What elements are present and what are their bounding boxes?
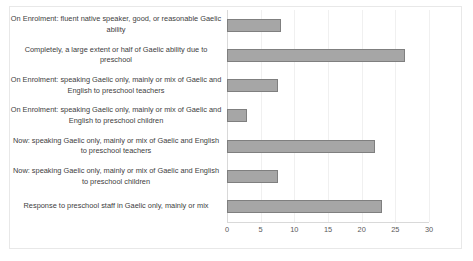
category-label: Response to preschool staff in Gaelic on…	[10, 192, 226, 222]
bar[interactable]	[227, 49, 405, 62]
bar-row	[227, 161, 429, 191]
category-label: On Enrolment: speaking Gaelic only, main…	[10, 101, 226, 131]
x-axis-tick-label: 10	[290, 225, 298, 234]
bar[interactable]	[227, 79, 278, 92]
chart-plot-container: On Enrolment: fluent native speaker, goo…	[10, 7, 461, 248]
category-label-text: Completely, a large extent or half of Ga…	[10, 45, 222, 66]
chart-frame: On Enrolment: fluent native speaker, goo…	[9, 6, 462, 249]
x-axis-tick-label: 5	[259, 225, 263, 234]
bar[interactable]	[227, 19, 281, 32]
gridline	[429, 10, 430, 222]
bar-row	[227, 10, 429, 40]
category-label: On Enrolment: speaking Gaelic only, main…	[10, 71, 226, 101]
x-axis-tick-label: 20	[358, 225, 366, 234]
category-label-text: Now: speaking Gaelic only, mainly or mix…	[10, 166, 222, 187]
category-label-text: On Enrolment: fluent native speaker, goo…	[10, 14, 222, 35]
category-label: Now: speaking Gaelic only, mainly or mix…	[10, 131, 226, 161]
bar-row	[227, 192, 429, 222]
category-label: On Enrolment: fluent native speaker, goo…	[10, 10, 226, 40]
bar[interactable]	[227, 109, 247, 122]
category-label-text: On Enrolment: speaking Gaelic only, main…	[10, 105, 222, 126]
bar[interactable]	[227, 200, 382, 213]
chart-screenshot: On Enrolment: fluent native speaker, goo…	[0, 0, 473, 261]
category-label-text: Now: speaking Gaelic only, mainly or mix…	[10, 136, 222, 157]
bar-row	[227, 71, 429, 101]
bar-row	[227, 101, 429, 131]
category-label-text: On Enrolment: speaking Gaelic only, main…	[10, 75, 222, 96]
bar[interactable]	[227, 140, 375, 153]
bar-row	[227, 40, 429, 70]
x-axis-tick-label: 30	[425, 225, 433, 234]
category-axis-labels: On Enrolment: fluent native speaker, goo…	[10, 10, 226, 222]
bar-row	[227, 131, 429, 161]
bar-series	[227, 10, 429, 222]
x-axis-tick-label: 25	[391, 225, 399, 234]
plot-area	[227, 10, 429, 222]
x-axis-tick-label: 15	[324, 225, 332, 234]
category-label-text: Response to preschool staff in Gaelic on…	[10, 201, 222, 212]
category-label: Now: speaking Gaelic only, mainly or mix…	[10, 161, 226, 191]
category-label: Completely, a large extent or half of Ga…	[10, 40, 226, 70]
x-axis-tick-labels: 051015202530	[227, 225, 429, 239]
bar[interactable]	[227, 170, 278, 183]
x-axis-line	[227, 222, 429, 223]
x-axis-tick-label: 0	[225, 225, 229, 234]
